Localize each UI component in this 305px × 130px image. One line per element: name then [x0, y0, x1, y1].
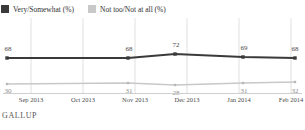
legend-label-not-too-not-at-all: Not too/Not at all (%) [100, 5, 166, 14]
gallup-line-chart: Very/Somewhat (%) Not too/Not at all (%)… [0, 0, 305, 130]
chart-legend: Very/Somewhat (%) Not too/Not at all (%) [0, 0, 305, 18]
data-point-not-too-not-at-all-0[interactable] [6, 83, 8, 85]
data-point-very-somewhat-3[interactable] [241, 55, 244, 58]
data-point-very-somewhat-1[interactable] [126, 56, 129, 59]
x-axis: Sep 2013Oct 2013Nov 2013Dec 2013Jan 2014… [0, 93, 305, 107]
data-label-very-somewhat-3: 69 [241, 44, 248, 52]
legend-item-not-too-not-at-all[interactable]: Not too/Not at all (%) [88, 5, 166, 14]
data-label-very-somewhat-1: 68 [126, 45, 133, 53]
data-point-not-too-not-at-all-1[interactable] [127, 82, 129, 84]
data-label-very-somewhat-2: 72 [173, 41, 180, 49]
x-tick-5: Feb 2014 [279, 96, 303, 104]
x-tick-1: Oct 2013 [71, 96, 95, 104]
data-point-not-too-not-at-all-3[interactable] [242, 82, 244, 84]
data-point-very-somewhat-4[interactable] [293, 56, 296, 59]
legend-label-very-somewhat: Very/Somewhat (%) [13, 5, 74, 14]
data-label-very-somewhat-0: 68 [5, 45, 12, 53]
legend-swatch-very-somewhat [1, 5, 9, 13]
attribution-gallup: GALLUP [2, 111, 37, 120]
x-axis-line [3, 93, 302, 94]
x-tick-2: Nov 2013 [122, 96, 148, 104]
legend-item-very-somewhat[interactable]: Very/Somewhat (%) [1, 5, 74, 14]
data-label-very-somewhat-4: 68 [292, 45, 299, 53]
x-tick-0: Sep 2013 [19, 96, 43, 104]
plot-area: 6868726968 3031283132 [0, 18, 305, 93]
series-line-not-too-not-at-all [7, 82, 295, 85]
series-line-very-somewhat [7, 54, 295, 58]
data-point-not-too-not-at-all-4[interactable] [294, 81, 296, 83]
data-point-very-somewhat-0[interactable] [5, 56, 8, 59]
x-tick-3: Dec 2013 [174, 96, 199, 104]
x-tick-4: Jan 2014 [227, 96, 250, 104]
legend-swatch-not-too-not-at-all [88, 5, 96, 13]
data-point-not-too-not-at-all-2[interactable] [174, 84, 176, 86]
data-point-very-somewhat-2[interactable] [173, 52, 176, 55]
plot-svg [0, 18, 305, 93]
